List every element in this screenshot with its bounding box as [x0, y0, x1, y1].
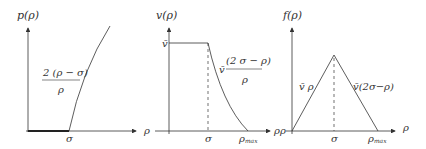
sigma-tick-label: σ: [66, 133, 74, 144]
y-axis-label: v(ρ): [156, 9, 177, 22]
formula-prefix: v̄: [219, 64, 225, 75]
sigma-tick-label: σ: [331, 133, 339, 144]
vbar-tick-label: v̄: [162, 38, 168, 49]
y-axis-label: f(ρ): [282, 9, 302, 22]
x-axis-label-right: ρ: [273, 125, 280, 136]
formula-numerator: 2 (ρ − σ): [42, 67, 88, 78]
left-slope-label: v̄ ρ: [299, 81, 314, 92]
diagram: p(ρ) σ 2 (ρ − σ) ρ v(ρ) v̄ ρ ρ σ ρmax v̄…: [0, 0, 426, 149]
sigma-tick-label: σ: [205, 133, 213, 144]
pressure-curve: [69, 26, 110, 131]
panel-flux: f(ρ) ρ ρ σ ρmax v̄ ρ v̄(2σ−ρ): [279, 9, 409, 144]
panel-pressure: p(ρ) σ 2 (ρ − σ) ρ: [17, 9, 136, 144]
panel-velocity: v(ρ) v̄ ρ ρ σ ρmax v̄ (2 σ − ρ) ρ: [143, 9, 280, 144]
formula-denominator: ρ: [57, 84, 64, 95]
rhomax-tick-label: ρmax: [367, 133, 387, 144]
x-axis-label-left: ρ: [279, 125, 286, 136]
x-axis-label-right: ρ: [402, 122, 409, 133]
formula-denominator: ρ: [241, 74, 248, 85]
rhomax-tick-label: ρmax: [238, 133, 258, 144]
x-axis-label-left: ρ: [143, 125, 150, 136]
flux-triangle: [292, 55, 378, 131]
y-axis-label: p(ρ): [17, 9, 39, 22]
right-slope-label: v̄(2σ−ρ): [353, 81, 394, 92]
formula-numerator: (2 σ − ρ): [226, 55, 271, 66]
